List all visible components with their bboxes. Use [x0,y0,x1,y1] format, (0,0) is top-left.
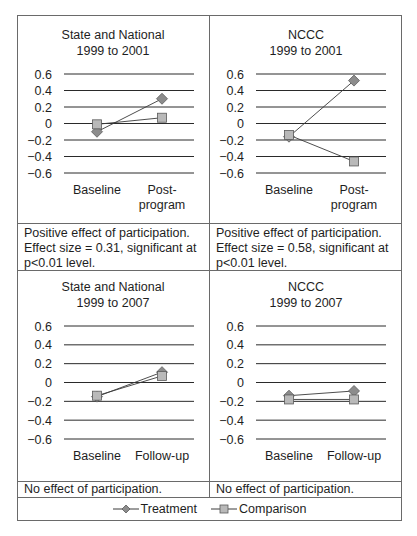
square-icon [285,131,294,140]
series-line-treatment [289,81,354,137]
y-tick-label: 0.6 [35,68,52,82]
square-icon [158,113,167,122]
y-tick-label: −0.6 [27,167,52,181]
x-category-label: Post- [147,183,176,197]
y-tick-label: −0.6 [27,433,52,447]
x-category-label: Follow-up [327,449,381,463]
square-icon [350,157,359,166]
legend: Treatment Comparison [17,497,402,521]
y-tick-label: 0.2 [227,101,244,115]
y-tick-label: −0.4 [27,150,52,164]
square-icon [93,391,102,400]
series-line-treatment [97,99,162,132]
diamond-icon [157,93,168,104]
y-tick-label: −0.6 [219,433,244,447]
y-tick-label: 0.4 [35,84,52,98]
square-icon [211,503,237,515]
x-category-label: Post- [339,183,368,197]
square-icon [93,120,102,129]
y-tick-label: 0.4 [227,338,244,352]
chart-plots: 0.60.40.20−0.2−0.4−0.6BaselinePost-progr… [0,0,417,536]
y-tick-label: −0.6 [219,167,244,181]
y-tick-label: 0.2 [35,357,52,371]
y-tick-label: −0.4 [27,414,52,428]
legend-label: Comparison [239,502,306,516]
series-line-comparison [289,135,354,161]
y-tick-label: 0 [237,376,244,390]
y-tick-label: −0.2 [27,395,52,409]
square-icon [350,395,359,404]
square-icon [285,395,294,404]
x-category-label: Baseline [265,449,313,463]
x-category-label: program [331,198,378,212]
y-tick-label: 0.6 [35,320,52,334]
legend-label: Treatment [141,502,198,516]
series-line-comparison [97,376,162,396]
x-category-label: Follow-up [135,449,189,463]
y-tick-label: −0.4 [219,414,244,428]
y-tick-label: −0.4 [219,150,244,164]
square-icon [158,371,167,380]
y-tick-label: −0.2 [219,134,244,148]
y-tick-label: 0.6 [227,320,244,334]
y-tick-label: 0 [45,117,52,131]
y-tick-label: 0.4 [35,338,52,352]
y-tick-label: 0 [237,117,244,131]
x-category-label: Baseline [73,449,121,463]
x-category-label: Baseline [265,183,313,197]
y-tick-label: −0.2 [27,134,52,148]
y-tick-label: 0 [45,376,52,390]
y-tick-label: 0.2 [227,357,244,371]
legend-item-comparison: Comparison [211,502,306,516]
y-tick-label: 0.6 [227,68,244,82]
y-tick-label: −0.2 [219,395,244,409]
x-category-label: Baseline [73,183,121,197]
y-tick-label: 0.2 [35,101,52,115]
x-category-label: program [139,198,186,212]
legend-item-treatment: Treatment [113,502,198,516]
series-line-treatment [289,391,354,396]
y-tick-label: 0.4 [227,84,244,98]
diamond-icon [113,503,139,515]
